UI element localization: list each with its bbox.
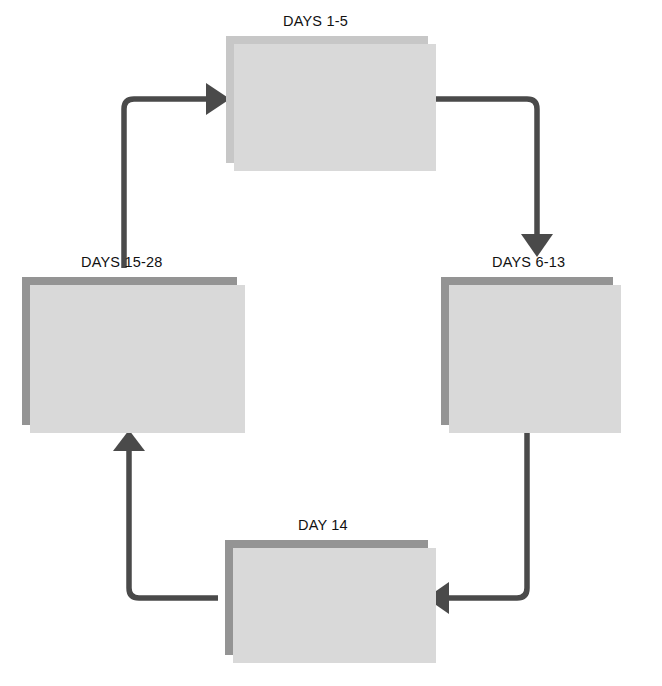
node-shadow-menses [234,44,436,171]
arrowhead-into-secretory [113,430,145,451]
node-shadow-ovulation [233,548,436,663]
arrow-ovulation-to-secretory-path [129,449,218,598]
day-label-menses: DAYS 1-5 [283,13,348,29]
arrow-proliferative-to-ovulation-path [448,432,527,598]
node-shadow-secretory [30,285,245,433]
day-label-secretory: DAYS 15-28 [81,254,163,270]
arrow-menses-to-proliferative-path [435,99,537,236]
day-label-ovulation: DAY 14 [298,517,348,533]
day-label-proliferative: DAYS 6-13 [492,254,565,270]
cycle-diagram: DAYS 1-5 Menses (menstrual) period Small… [0,0,662,686]
node-shadow-proliferative [449,285,621,433]
arrow-secretory-to-menses-path [124,99,207,268]
